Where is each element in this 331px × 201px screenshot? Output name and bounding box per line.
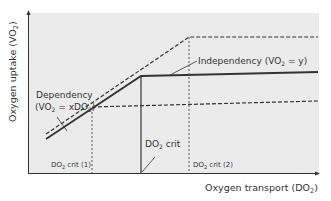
independency-label: Independency (VO2 = y) xyxy=(198,56,307,67)
do2crit-1-label: DO2 crit (1) xyxy=(51,161,91,170)
do2crit-2-label: DO2 crit (2) xyxy=(193,161,233,170)
dependency-formula: (VO2 = xDO2) xyxy=(35,102,95,113)
do2crit-label: DO2 crit xyxy=(145,139,181,150)
y-axis-arrow-icon xyxy=(27,10,31,15)
dependency-label: Dependency xyxy=(36,90,93,100)
y-axis-label: Oxygen uptake (VO2) xyxy=(7,21,20,122)
vo2-do2-diagram: Oxygen uptake (VO2) Oxygen transport (DO… xyxy=(0,0,331,201)
x-axis-label: Oxygen transport (DO2) xyxy=(205,182,318,195)
